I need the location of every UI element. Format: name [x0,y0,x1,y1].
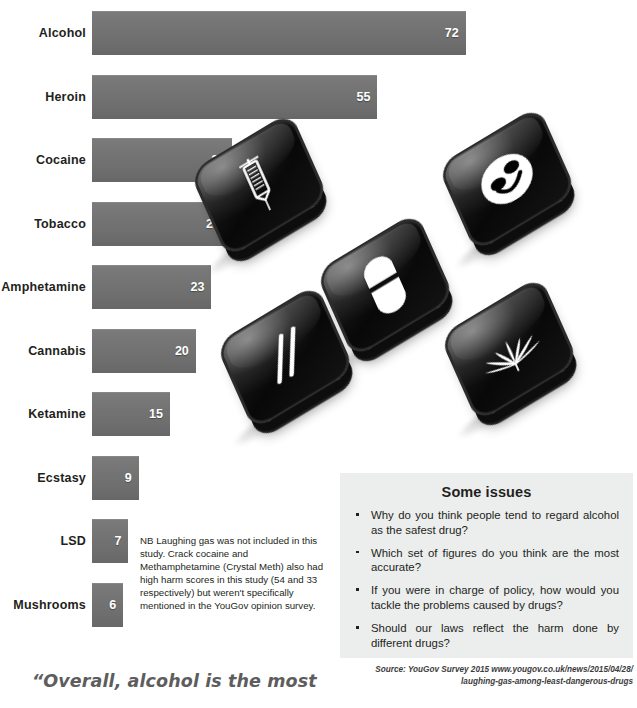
tile-body [189,111,329,259]
drug-icon-tiles [178,120,633,465]
bullet-icon [356,551,359,554]
bar: 15 [92,392,170,436]
bar-row: Heroin55 [0,72,500,122]
bar-label: Ketamine [0,389,86,439]
bar-value: 15 [149,392,163,436]
list-item: If you were in charge of policy, how wou… [352,583,619,612]
bar-label: Alcohol [0,8,86,58]
bar-label: Cannabis [0,326,86,376]
bar-value: 9 [125,456,132,500]
bar-value: 55 [357,75,371,119]
bar-label: Tobacco [0,199,86,249]
bar: 55 [92,75,377,119]
bar-label: Ecstasy [0,453,86,503]
issues-heading: Some issues [340,473,633,508]
bar-label: Amphetamine [0,262,86,312]
bar-value: 6 [109,583,116,627]
bar-row: Alcohol72 [0,8,500,58]
lines-tile [226,298,376,448]
bar: 9 [92,456,139,500]
source-line-1: Source: YouGov Survey 2015 www.yougov.co… [340,664,633,676]
study-note: NB Laughing gas was not included in this… [140,534,330,613]
bar-label: Cocaine [0,135,86,185]
issue-text: If you were in charge of policy, how wou… [371,584,619,611]
bar: 7 [92,519,128,563]
issue-text: Should our laws reflect the harm done by… [371,622,619,649]
issues-list: Why do you think people tend to regard a… [340,508,633,650]
tile-body [215,283,355,431]
tile-body [439,275,579,423]
bar-value: 7 [114,519,121,563]
source-credit: Source: YouGov Survey 2015 www.yougov.co… [340,664,637,687]
bar-value: 72 [445,11,459,55]
bar-label: Mushrooms [0,580,86,630]
list-item: Should our laws reflect the harm done by… [352,621,619,650]
bullet-icon [356,513,359,516]
bullet-icon [356,626,359,629]
bar: 72 [92,11,466,55]
list-item: Which set of figures do you think are th… [352,546,619,575]
cannabis-tile [450,290,600,440]
some-issues-panel: Some issues Why do you think people tend… [340,473,633,658]
list-item: Why do you think people tend to regard a… [352,508,619,537]
bar-label: Heroin [0,72,86,122]
bar: 6 [92,583,123,627]
pull-quote: “Overall, alcohol is the most [32,668,332,694]
bullet-icon [356,588,359,591]
source-line-2: laughing-gas-among-least-dangerous-drugs [340,676,633,688]
issue-text: Which set of figures do you think are th… [371,547,619,574]
issue-text: Why do you think people tend to regard a… [371,509,619,536]
bar-label: LSD [0,516,86,566]
